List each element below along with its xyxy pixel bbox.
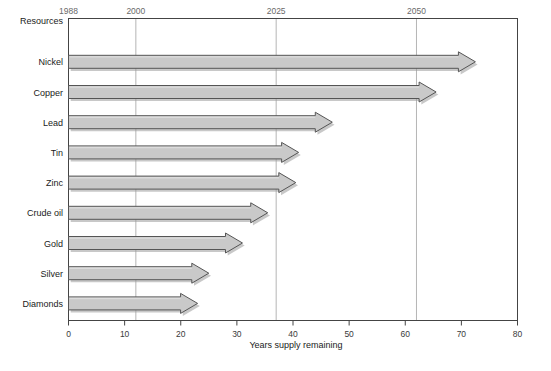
x-tick-label-50: 50 bbox=[344, 329, 354, 339]
category-label-silver: Silver bbox=[40, 269, 63, 279]
bar-shape bbox=[69, 112, 333, 132]
horizontal-arrow-bar-chart: 1988200020252050 01020304050607080 Nicke… bbox=[0, 0, 551, 371]
category-label-gold: Gold bbox=[44, 239, 63, 249]
bar-shape bbox=[69, 263, 209, 283]
bar-shape bbox=[69, 173, 296, 193]
category-label-zinc: Zinc bbox=[46, 178, 64, 188]
x-tick-label-40: 40 bbox=[288, 329, 298, 339]
x-tick-label-20: 20 bbox=[176, 329, 186, 339]
top-tick-label-2050: 2050 bbox=[407, 6, 426, 16]
bar-shape bbox=[69, 293, 198, 313]
top-tick-label-2000: 2000 bbox=[126, 6, 145, 16]
x-tick-label-30: 30 bbox=[232, 329, 242, 339]
x-tick-label-70: 70 bbox=[457, 329, 467, 339]
top-tick-label-1988: 1988 bbox=[59, 6, 78, 16]
bar-shape bbox=[69, 142, 299, 162]
bar-shape bbox=[69, 203, 268, 223]
x-axis-title: Years supply remaining bbox=[249, 340, 342, 350]
x-tick-label-10: 10 bbox=[120, 329, 130, 339]
category-axis-header: Resources bbox=[20, 16, 64, 26]
bar-shape bbox=[69, 52, 476, 72]
category-label-tin: Tin bbox=[51, 148, 63, 158]
x-tick-label-0: 0 bbox=[66, 329, 71, 339]
x-tick-label-60: 60 bbox=[401, 329, 411, 339]
bar-shape bbox=[69, 233, 243, 253]
category-label-crude-oil: Crude oil bbox=[27, 208, 63, 218]
top-tick-label-2025: 2025 bbox=[267, 6, 286, 16]
category-label-lead: Lead bbox=[43, 118, 63, 128]
category-label-diamonds: Diamonds bbox=[22, 299, 63, 309]
category-label-copper: Copper bbox=[33, 88, 63, 98]
category-label-nickel: Nickel bbox=[38, 57, 63, 67]
x-tick-label-80: 80 bbox=[513, 329, 523, 339]
chart-container: 1988200020252050 01020304050607080 Nicke… bbox=[0, 0, 551, 371]
bar-shape bbox=[69, 82, 437, 102]
